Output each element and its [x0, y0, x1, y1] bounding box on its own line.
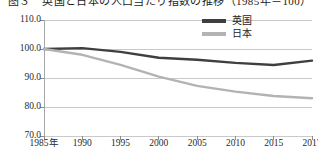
x-axis-tick-label: 2005	[188, 139, 207, 149]
figure-container: 图３ 英国と日本の人口当たり指数の推移（1985年＝100） 110.0100.…	[0, 0, 318, 164]
chart-title: 图３ 英国と日本の人口当たり指数の推移（1985年＝100）	[8, 0, 312, 7]
x-axis-tick-label: 2000	[149, 139, 168, 149]
x-axis-tick-label: 1985年	[30, 139, 59, 149]
legend: 英国日本	[202, 15, 272, 41]
legend-color-swatch	[202, 19, 226, 23]
legend-label: 日本	[232, 29, 252, 39]
plot-area: 110.0100.090.080.070.0 1985年199019952000…	[0, 7, 318, 164]
legend-item: 日本	[202, 28, 272, 40]
chart-title-strip: 图３ 英国と日本の人口当たり指数の推移（1985年＝100）	[0, 0, 318, 7]
x-axis-tick-label: 1990	[73, 139, 92, 149]
legend-item: 英国	[202, 15, 272, 27]
legend-color-swatch	[202, 32, 226, 36]
x-axis-tick-label: 2017	[303, 139, 319, 149]
x-axis-tick-label: 1995	[111, 139, 130, 149]
x-axis-tick-label: 2015	[264, 139, 283, 149]
legend-label: 英国	[232, 16, 252, 26]
x-axis-tick-label: 2010	[226, 139, 245, 149]
